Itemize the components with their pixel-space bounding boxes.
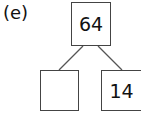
left-child-box[interactable] [40,70,79,111]
right-child-box: 14 [101,70,141,111]
root-box: 64 [71,2,111,46]
right-child-value: 14 [109,80,133,102]
root-value: 64 [79,13,103,35]
